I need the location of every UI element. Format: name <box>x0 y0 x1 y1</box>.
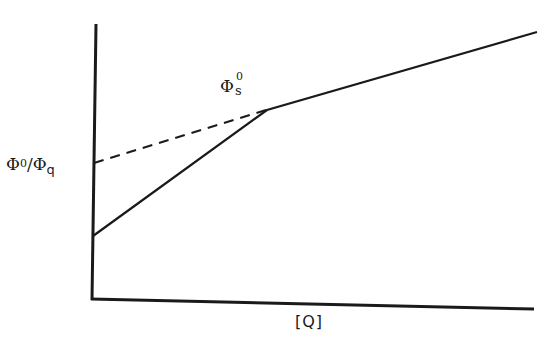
dashed-extrapolation-line <box>94 110 266 163</box>
knee-label: Φ0s <box>220 76 244 96</box>
solid-quenching-curve <box>93 32 537 236</box>
x-axis <box>91 299 534 309</box>
x-axis-label: [Q] <box>295 312 323 331</box>
y-axis-label: Φ0/Φq <box>6 154 55 174</box>
diagram-canvas <box>0 0 555 350</box>
